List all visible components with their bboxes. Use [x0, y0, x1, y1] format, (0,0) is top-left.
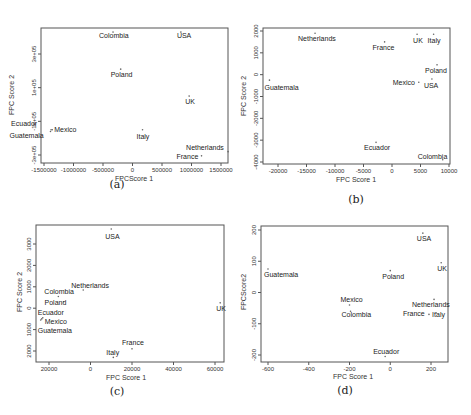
point-label: Poland: [111, 71, 133, 78]
figure-canvas: -1500000-1000000-50000005000001000000150…: [0, 0, 471, 415]
x-tick-label: -400: [303, 366, 316, 372]
point-mexico: Mexico: [393, 79, 420, 86]
y-axis: 2001000-100-200: [251, 224, 261, 361]
point-guatemala: Guatemala: [9, 131, 51, 140]
y-tick-label: -3000: [253, 132, 259, 148]
point-france: France: [373, 41, 395, 51]
y-axis-label: FPC Score 2: [16, 272, 23, 312]
point-france: France: [403, 310, 430, 317]
panel-b: -20000-15000-10000-500005000100002000100…: [240, 24, 458, 206]
point-poland: Poland: [111, 68, 133, 78]
point-label: Guatemala: [38, 327, 72, 334]
point-label: France: [373, 44, 395, 51]
point-netherlands: Netherlands: [71, 282, 109, 291]
x-axis: 200000200004000060000: [41, 362, 224, 372]
x-axis-label: FPC Score 1: [333, 373, 373, 380]
x-tick-label: -200: [343, 366, 356, 372]
point-label: Mexico: [45, 318, 67, 325]
x-tick-label: -600: [262, 366, 275, 372]
point-label: Netherlands: [186, 144, 224, 151]
x-tick-label: 5000: [414, 168, 428, 174]
point-label: Italy: [428, 37, 441, 45]
y-axis-label: FPCScore2: [240, 274, 247, 310]
panel-caption: (d): [337, 384, 353, 397]
x-tick-label: 0: [131, 167, 135, 173]
x-tick-label: -500000: [92, 167, 115, 173]
y-tick-label: 2000: [26, 258, 32, 272]
point-label: Ecuador: [38, 309, 65, 316]
y-tick-label: -2000: [253, 110, 259, 126]
point-mexico: Mexico: [341, 296, 363, 306]
point-usa: USA: [424, 78, 439, 89]
point-marker: [201, 155, 203, 157]
x-tick-label: 10000: [441, 168, 458, 174]
panel-d: -600-400-20002002001000-100-200FPC Score…: [240, 224, 450, 397]
point-label: Italy: [106, 349, 119, 357]
point-label: Netherlands: [412, 301, 450, 308]
x-tick-label: 1000000: [180, 167, 204, 173]
point-italy: Italy: [106, 349, 119, 358]
point-marker: [51, 129, 53, 131]
point-marker: [416, 33, 418, 35]
point-marker: [418, 82, 420, 84]
y-axis-label: FPC Score 2: [240, 76, 247, 116]
point-marker: [269, 79, 271, 81]
y-tick-label: 200: [251, 224, 257, 235]
point-ecuador: Ecuador: [364, 142, 391, 152]
point-colombia: Colombia: [44, 288, 74, 297]
point-mexico: Mexico: [51, 126, 76, 133]
point-label: Netherlands: [71, 282, 109, 289]
point-label: Guatemala: [9, 132, 43, 139]
point-poland: Poland: [382, 270, 404, 280]
x-tick-label: 0: [89, 366, 93, 372]
point-marker: [120, 68, 122, 70]
point-label: USA: [417, 235, 432, 242]
point-marker: [433, 299, 435, 301]
plot-frame: [263, 28, 450, 164]
point-label: France: [177, 153, 199, 160]
y-tick-label: 1000: [253, 46, 259, 60]
x-axis-label: FPC Score 1: [106, 374, 146, 381]
point-marker: [142, 129, 144, 131]
point-label: Colombia: [99, 32, 129, 39]
point-italy: Italy: [432, 311, 445, 319]
panel-caption: (c): [110, 385, 125, 398]
point-marker: [436, 64, 438, 66]
point-label: Guatemala: [264, 84, 298, 91]
x-axis: -600-400-2000200: [262, 362, 437, 372]
panel-c: 2000002000040000600003000200010000100020…: [16, 225, 226, 398]
y-tick-label: -200: [251, 348, 257, 361]
point-label: UK: [413, 37, 423, 44]
y-tick-label: -3e+05: [31, 145, 37, 165]
panel-a: -1500000-1000000-50000005000001000000150…: [8, 28, 233, 191]
x-tick-label: 500000: [152, 167, 173, 173]
point-uk: UK: [413, 33, 423, 44]
y-tick-label: 3000: [26, 237, 32, 251]
point-label: Mexico: [341, 296, 363, 303]
y-tick-label: 3e+05: [31, 45, 37, 63]
point-label: USA: [105, 233, 120, 240]
y-axis: 200010000-1000-2000-3000-4000: [253, 24, 263, 170]
y-tick-label: 1e+05: [31, 79, 37, 97]
y-tick-label: 1000: [26, 322, 32, 336]
point-label: UK: [185, 98, 195, 105]
point-label: Mexico: [393, 79, 415, 86]
point-marker: [131, 348, 133, 350]
point-label: Ecuador: [373, 348, 400, 355]
data-points: ColombiaUSAPolandUKEcuadorMexicoGuatemal…: [9, 31, 228, 160]
point-usa: USA: [177, 31, 192, 39]
point-label: Netherlands: [298, 35, 336, 42]
x-tick-label: 0: [389, 366, 393, 372]
y-tick-label: 0: [251, 290, 257, 294]
point-label: Ecuador: [364, 144, 391, 151]
point-guatemala: Guatemala: [264, 79, 298, 91]
panel-caption: (b): [348, 193, 364, 206]
x-tick-label: -1500000: [31, 167, 57, 173]
point-marker: [431, 78, 433, 80]
point-colombia: Colombia: [99, 31, 129, 39]
point-colombia: Colombia: [418, 153, 448, 161]
point-marker: [384, 356, 386, 358]
x-tick-label: 60000: [207, 366, 224, 372]
x-tick-label: -1000000: [61, 167, 87, 173]
point-marker: [433, 33, 435, 35]
